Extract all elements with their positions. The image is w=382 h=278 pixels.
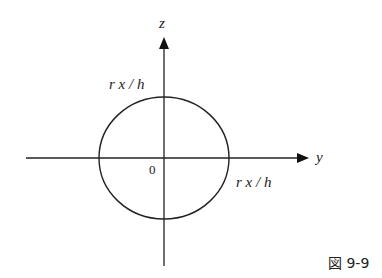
vertical-z-axis <box>159 37 169 266</box>
figure-caption: 図 9-9 <box>328 252 369 272</box>
arrow-up-icon <box>159 37 169 49</box>
top-radius-label: r x / h <box>109 76 144 92</box>
origin-label: 0 <box>149 162 156 177</box>
right-radius-label: r x / h <box>236 174 271 190</box>
horizontal-y-axis <box>26 153 309 163</box>
arrow-right-icon <box>297 153 309 163</box>
cross-section-diagram: z y 0 r x / h r x / h <box>0 0 382 278</box>
y-axis-label: y <box>314 149 323 165</box>
z-axis-label: z <box>158 15 165 31</box>
